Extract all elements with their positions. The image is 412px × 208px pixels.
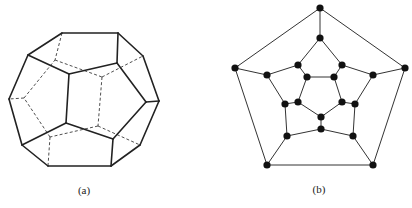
graph-node <box>401 64 408 71</box>
graph-edge <box>373 68 405 165</box>
hidden-edge <box>102 56 143 77</box>
caption-a: (a) <box>78 184 90 196</box>
visible-edge <box>22 145 48 166</box>
visible-edge <box>111 145 140 166</box>
graph-node <box>303 73 310 80</box>
graph-edge <box>287 129 321 136</box>
graph-node <box>316 4 323 11</box>
visible-edge <box>28 55 69 74</box>
visible-edge <box>143 56 159 101</box>
visible-edge <box>66 74 69 123</box>
graph-edge <box>320 38 342 65</box>
dodecahedron-graph <box>231 4 408 168</box>
graph-edge <box>235 68 267 75</box>
graph-edge <box>267 75 285 104</box>
graph-node <box>317 125 324 132</box>
graph-edge <box>334 77 342 102</box>
visible-edge <box>66 123 113 139</box>
graph-node <box>338 98 345 105</box>
graph-edge <box>342 65 373 75</box>
graph-edge <box>355 75 373 104</box>
graph-node <box>316 34 323 41</box>
graph-node <box>369 71 376 78</box>
graph-node <box>351 100 358 107</box>
graph-edge <box>235 68 267 165</box>
graph-node <box>263 71 270 78</box>
hidden-edge <box>48 137 50 166</box>
hidden-edge <box>9 98 24 99</box>
hidden-edge <box>98 77 102 126</box>
dodecahedron-drawing <box>9 33 159 166</box>
visible-edge <box>69 63 117 74</box>
graph-edge <box>285 104 287 136</box>
visible-edge <box>146 101 159 102</box>
graph-node <box>369 161 376 168</box>
graph-edge <box>235 8 320 68</box>
visible-edge <box>117 33 118 63</box>
visible-edge <box>117 63 146 102</box>
visible-edge <box>140 101 159 145</box>
graph-edge <box>267 136 287 165</box>
visible-edge <box>9 55 28 99</box>
graph-node <box>317 113 324 120</box>
caption-b: (b) <box>313 183 326 195</box>
graph-node <box>263 161 270 168</box>
graph-node <box>294 98 301 105</box>
graph-edge <box>353 104 355 136</box>
hidden-edge <box>24 98 50 137</box>
graph-node <box>281 100 288 107</box>
graph-edge <box>298 77 307 102</box>
figure-canvas <box>0 0 412 208</box>
graph-edge <box>267 65 298 75</box>
graph-edge <box>298 102 321 117</box>
graph-edge <box>298 38 320 65</box>
graph-node <box>330 73 337 80</box>
graph-edge <box>353 136 373 165</box>
visible-edge <box>22 123 66 145</box>
graph-node <box>338 61 345 68</box>
graph-edge <box>320 8 405 68</box>
graph-node <box>349 132 356 139</box>
visible-edge <box>28 33 62 55</box>
graph-node <box>294 61 301 68</box>
graph-edge <box>373 68 405 75</box>
visible-edge <box>111 139 113 166</box>
visible-edge <box>9 99 22 145</box>
graph-edge <box>321 102 342 117</box>
graph-node <box>231 64 238 71</box>
visible-edge <box>113 102 146 139</box>
graph-edge <box>321 129 353 136</box>
visible-edge <box>118 33 143 56</box>
graph-node <box>283 132 290 139</box>
